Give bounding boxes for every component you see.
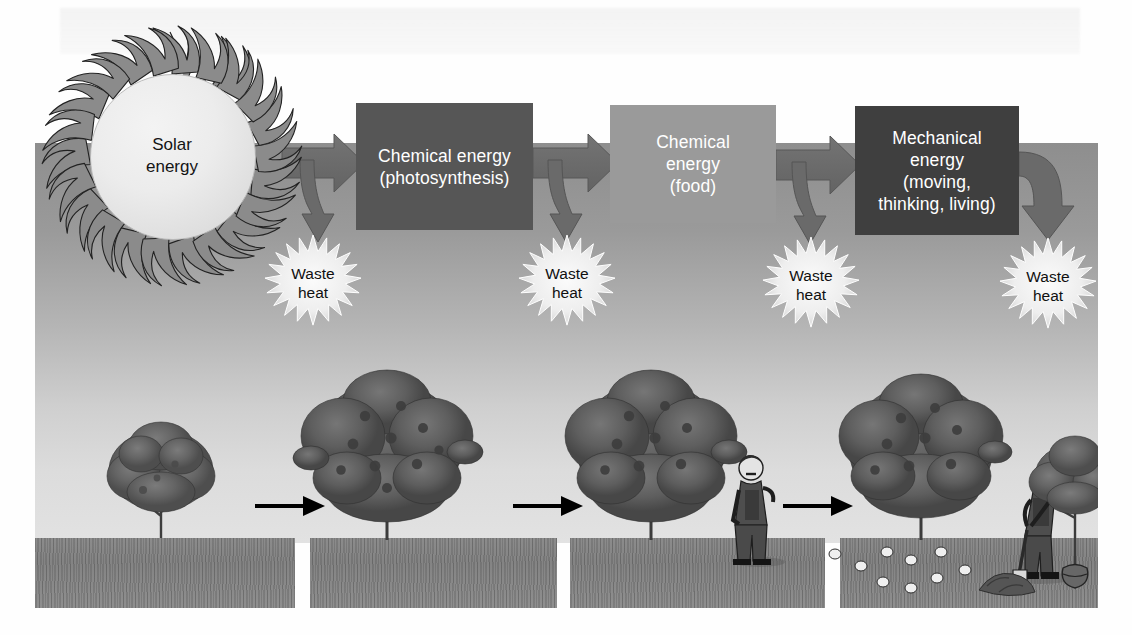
sun-label-line1: Solar: [90, 134, 254, 156]
energy-box-food: Chemical energy (food): [610, 105, 776, 223]
waste-heat-label-1: Waste heat: [264, 234, 362, 332]
large-fruit-tree-panel-2: [293, 370, 483, 540]
waste-heat-burst-4: Waste heat: [999, 237, 1097, 335]
progress-arrow-1: [255, 496, 325, 516]
sun-label-line2: energy: [90, 156, 254, 178]
energy-box-food-line-1: Chemical: [656, 131, 730, 153]
small-tree-panel-1: [107, 422, 215, 538]
waste-heat-burst-3: Waste heat: [762, 236, 860, 334]
waste-heat-line1: Waste: [789, 266, 832, 285]
waste-heat-line1: Waste: [291, 264, 334, 283]
sun-label: Solar energy: [90, 134, 254, 178]
progress-arrow-3: [783, 496, 853, 516]
energy-box-photosynthesis: Chemical energy (photosynthesis): [356, 103, 533, 230]
energy-box-photosynthesis-line-1: Chemical energy: [378, 145, 511, 167]
large-fruit-tree-panel-4: [839, 374, 1012, 540]
energy-box-mechanical-line-1: Mechanical: [878, 127, 995, 149]
waste-heat-line2: heat: [796, 285, 826, 304]
waste-heat-line2: heat: [298, 283, 328, 302]
waste-heat-line1: Waste: [1026, 267, 1069, 286]
waste-heat-label-3: Waste heat: [762, 236, 860, 334]
waste-heat-burst-1: Waste heat: [264, 234, 362, 332]
energy-box-food-line-2: energy: [656, 153, 730, 175]
waste-heat-label-2: Waste heat: [518, 234, 616, 332]
energy-flow-diagram: Solar energy Chemical energy (photosynth…: [0, 0, 1132, 635]
waste-heat-label-4: Waste heat: [999, 237, 1097, 335]
progress-arrow-2: [513, 496, 583, 516]
energy-box-mechanical: Mechanical energy (moving, thinking, liv…: [855, 106, 1019, 235]
energy-box-photosynthesis-line-2: (photosynthesis): [378, 167, 511, 189]
energy-box-food-line-3: (food): [656, 175, 730, 197]
fallen-fruit: [829, 547, 971, 593]
figure-title: Energy flow from solar energy to mechani…: [0, 0, 1, 1]
waste-heat-burst-2: Waste heat: [518, 234, 616, 332]
scene-artwork: [35, 340, 1098, 610]
waste-heat-line2: heat: [1033, 286, 1063, 305]
energy-box-mechanical-line-3: (moving,: [878, 171, 995, 193]
energy-box-mechanical-line-2: energy: [878, 149, 995, 171]
large-fruit-tree-panel-3: [565, 370, 747, 540]
waste-heat-line1: Waste: [545, 264, 588, 283]
waste-heat-line2: heat: [552, 283, 582, 302]
energy-box-mechanical-line-4: thinking, living): [878, 193, 995, 215]
standing-man: [733, 455, 785, 567]
